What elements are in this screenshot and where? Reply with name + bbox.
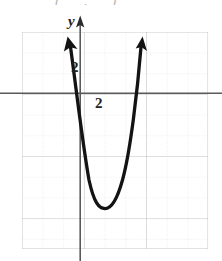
- parabola-path: [71, 47, 142, 209]
- parabola-curve: [0, 0, 222, 261]
- y-axis-label: y: [68, 14, 75, 29]
- graph-figure: ( , ): [0, 0, 222, 261]
- y-axis-tick-label-2: 2: [71, 60, 79, 75]
- coordinate-plane: y 2 2: [0, 0, 222, 261]
- x-axis-tick-label-2: 2: [95, 96, 103, 111]
